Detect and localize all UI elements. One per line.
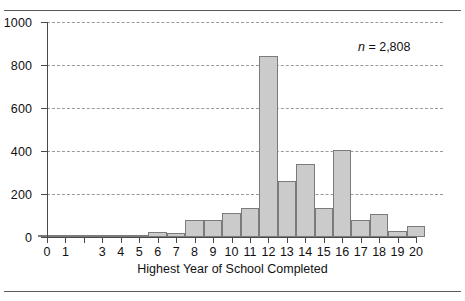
- x-tick-label: 17: [354, 245, 368, 259]
- x-tick-label: 15: [317, 245, 331, 259]
- annotation-value: = 2,808: [365, 40, 411, 54]
- x-tick-label: 0: [44, 245, 51, 259]
- sample-size-annotation: n = 2,808: [358, 40, 410, 54]
- x-axis-line: [47, 237, 416, 238]
- x-tick-label: 4: [117, 245, 124, 259]
- x-tick-label: 20: [409, 245, 423, 259]
- x-tick-label: 12: [261, 245, 275, 259]
- bottom-rule: [4, 291, 461, 292]
- bar: [333, 150, 351, 237]
- y-tick-label: 400: [11, 145, 32, 159]
- annotation-symbol: n: [358, 40, 365, 54]
- y-tick-label: 800: [11, 59, 32, 73]
- x-tick-label: 19: [391, 245, 405, 259]
- bar: [296, 164, 314, 237]
- x-tick: [416, 237, 417, 243]
- bar: [241, 208, 259, 237]
- x-tick-label: 6: [154, 245, 161, 259]
- bar: [407, 226, 425, 237]
- bar: [315, 208, 333, 237]
- bar: [222, 213, 240, 237]
- x-tick-label: 9: [210, 245, 217, 259]
- bar-series: [47, 22, 443, 237]
- histogram-figure: 02004006008001000 0134567891011121314151…: [0, 0, 465, 301]
- y-axis-line: [47, 22, 48, 238]
- y-tick-label: 0: [25, 231, 32, 245]
- bar: [259, 56, 277, 237]
- x-axis-title: Highest Year of School Completed: [0, 262, 465, 276]
- bar: [204, 220, 222, 237]
- y-tick-label: 1000: [4, 16, 32, 30]
- x-tick-label: 16: [335, 245, 349, 259]
- plot-area: 02004006008001000 0134567891011121314151…: [47, 22, 443, 237]
- x-tick-label: 5: [136, 245, 143, 259]
- bar: [370, 214, 388, 237]
- y-tick-label: 200: [11, 188, 32, 202]
- x-tick-label: 1: [62, 245, 69, 259]
- top-rule: [4, 10, 461, 11]
- y-tick-label: 600: [11, 102, 32, 116]
- x-tick-label: 11: [243, 245, 256, 259]
- x-tick-label: 10: [225, 245, 239, 259]
- x-tick-label: 7: [173, 245, 180, 259]
- x-tick-label: 14: [298, 245, 312, 259]
- x-tick-label: 18: [372, 245, 386, 259]
- bar: [185, 220, 203, 237]
- x-tick-label: 8: [191, 245, 198, 259]
- x-tick-label: 3: [99, 245, 106, 259]
- bar: [278, 181, 296, 237]
- bar: [351, 220, 369, 237]
- x-tick-label: 13: [280, 245, 294, 259]
